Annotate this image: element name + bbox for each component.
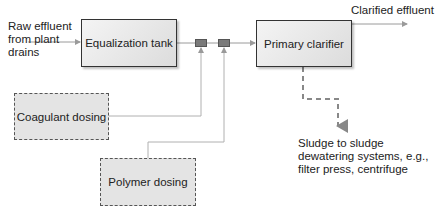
sludge-output-label: Sludge to sludge dewatering systems, e.g… (298, 137, 428, 176)
coagulant-dosing-label: Coagulant dosing (17, 111, 107, 123)
primary-clarifier-node: Primary clarifier (256, 20, 352, 67)
sludge-dashed-arrow (303, 67, 338, 126)
polymer-dosing-node: Polymer dosing (100, 158, 196, 206)
mixer-2-node (218, 39, 230, 47)
polymer-dosing-label: Polymer dosing (108, 176, 187, 188)
clarified-effluent-label: Clarified effluent (351, 4, 434, 17)
raw-effluent-label: Raw effluent from plant drains (8, 20, 72, 59)
primary-clarifier-label: Primary clarifier (264, 38, 344, 50)
mixer-1-node (195, 39, 207, 47)
coagulant-dosing-node: Coagulant dosing (14, 93, 109, 140)
equalization-tank-label: Equalization tank (85, 37, 173, 49)
equalization-tank-node: Equalization tank (81, 19, 177, 67)
